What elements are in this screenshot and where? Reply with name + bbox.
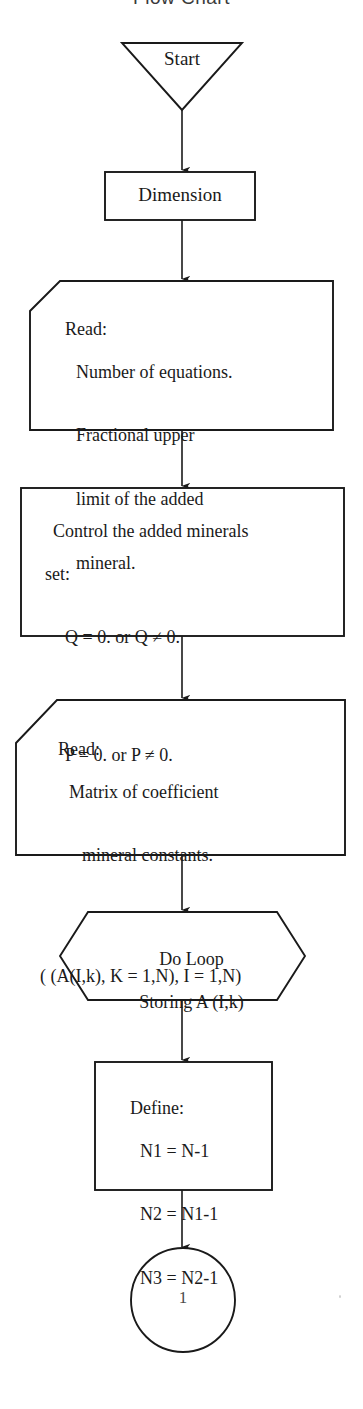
read1-line-2: Number of equations. [47,362,232,383]
flowchart-page: Flow Chart [0,0,363,1409]
define-line-4: N3 = N2-1 [112,1268,218,1289]
read2-line-1: Read: [58,739,100,759]
node-dimension-label: Dimension [105,184,255,206]
control-spacer [35,691,248,702]
read2-line-3: mineral constants. [40,845,241,866]
control-line-2: set: [35,564,248,585]
node-start-label: Start [122,48,242,70]
node-connector1-label: 1 [131,1288,235,1308]
read1-line-1: Read: [65,319,107,339]
doloop-line-2: Storing A (I,k) [139,992,244,1012]
read1-line-3: Fractional upper [47,425,232,446]
define-line-2: N1 = N-1 [112,1141,218,1162]
doloop-line-1: Do Loop [159,949,224,969]
define-line-1: Define: [130,1098,184,1118]
control-line-3: Q = 0. or Q ≠ 0. [35,627,248,648]
read2-line-2: Matrix of coefficient [40,782,241,803]
scan-artifact-speck [339,1295,341,1298]
read2-spacer [40,909,241,923]
control-line-1: Control the added minerals [53,521,248,541]
define-line-3: N2 = N1-1 [112,1204,218,1225]
node-doloop-label: Do Loop Storing A (I,k) [60,928,305,1034]
